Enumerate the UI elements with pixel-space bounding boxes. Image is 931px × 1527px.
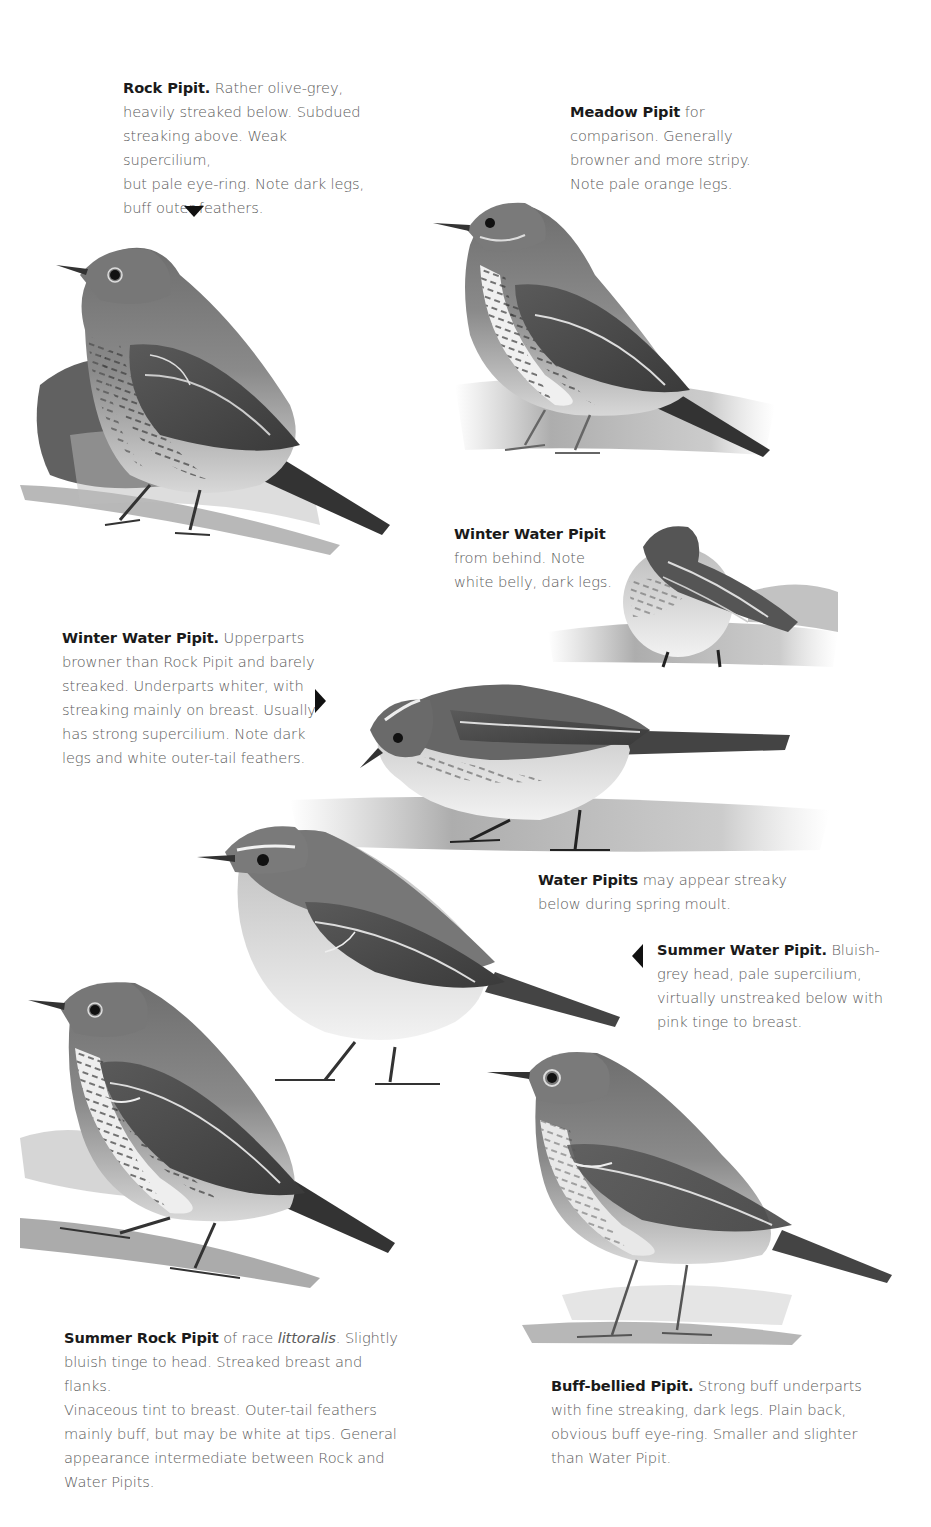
- caption-title: Winter Water Pipit.: [62, 629, 219, 646]
- caption-title: Summer Rock Pipit: [64, 1329, 219, 1346]
- illustration-meadow-pipit: [425, 195, 785, 465]
- caption-buff-bellied-pipit: Buff-bellied Pipit. Strong buff underpar…: [551, 1374, 881, 1470]
- caption-summer-rock-pipit: Summer Rock Pipit of race littoralis. Sl…: [64, 1326, 409, 1494]
- illustration-winter-water-pipit-behind: [548, 522, 843, 672]
- illustration-rock-pipit: [10, 235, 400, 565]
- caption-summer-water-pipit: Summer Water Pipit. Bluish- grey head, p…: [657, 938, 907, 1034]
- caption-title: Meadow Pipit: [570, 103, 680, 120]
- illustration-summer-rock-pipit: [20, 978, 410, 1288]
- pointer-down-icon: [184, 206, 204, 217]
- caption-meadow-pipit: Meadow Pipit for comparison. Generally b…: [570, 100, 790, 196]
- caption-title: Summer Water Pipit.: [657, 941, 827, 958]
- caption-title: Buff-bellied Pipit.: [551, 1377, 694, 1394]
- caption-title: Rock Pipit.: [123, 79, 210, 96]
- illustration-buff-bellied-pipit: [482, 1045, 902, 1345]
- pointer-left-icon: [632, 944, 643, 968]
- caption-rock-pipit: Rock Pipit. Rather olive-grey, heavily s…: [123, 76, 373, 220]
